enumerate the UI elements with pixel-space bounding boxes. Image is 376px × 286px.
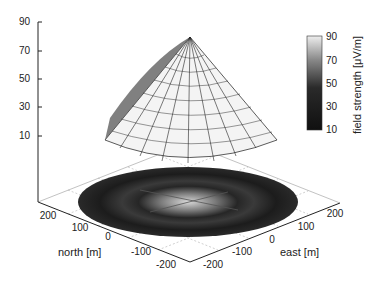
north-tick: -200	[156, 259, 176, 270]
north-axis-label: north [m]	[58, 246, 101, 258]
north-tick: 0	[105, 231, 111, 242]
z-tick: 50	[19, 73, 31, 84]
colorbar-tick: 90	[326, 31, 338, 42]
colorbar-tick: 30	[326, 101, 338, 112]
east-tick: -200	[203, 259, 223, 270]
z-tick: 70	[19, 45, 31, 56]
mesh-surface	[105, 37, 277, 163]
north-tick: 100	[72, 222, 89, 233]
colorbar: 90 70 50 30 10 field strength [μV/m]	[307, 31, 363, 135]
colorbar-label: field strength [μV/m]	[351, 36, 363, 134]
surface-plot: 90 70 50 30 10 200 100 0 -100 -200 nor	[0, 0, 376, 286]
colorbar-tick: 50	[326, 78, 338, 89]
north-tick: 200	[40, 210, 57, 221]
z-axis	[38, 22, 42, 202]
colorbar-tick: 10	[326, 124, 338, 135]
z-tick: 10	[19, 130, 31, 141]
colorbar-tick: 70	[326, 55, 338, 66]
east-tick: 0	[269, 234, 275, 245]
z-tick: 90	[19, 16, 31, 27]
north-tick: -100	[131, 246, 151, 257]
z-tick: 30	[19, 101, 31, 112]
east-tick: -100	[232, 246, 252, 257]
east-axis-label: east [m]	[280, 246, 319, 258]
east-tick: 200	[327, 208, 344, 219]
east-tick: 100	[298, 221, 315, 232]
